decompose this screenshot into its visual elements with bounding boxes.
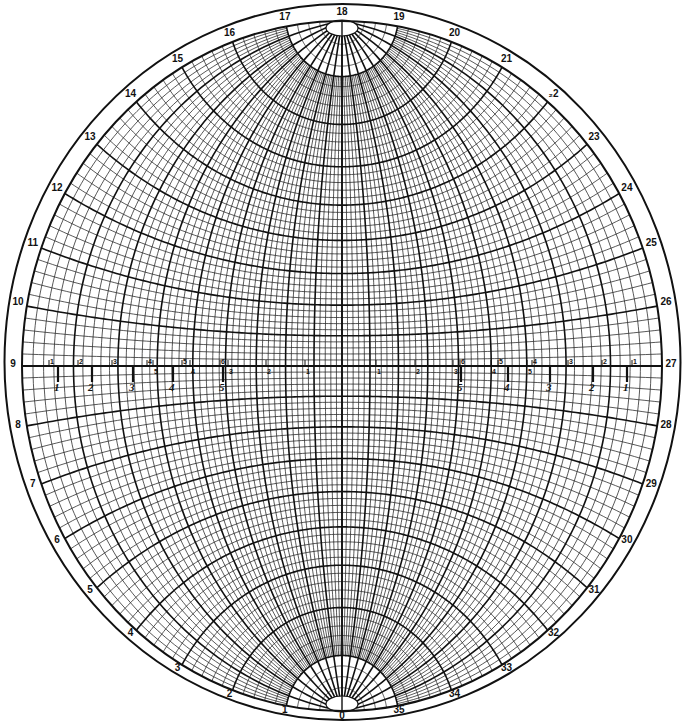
equator-scale-mark: 4: [168, 381, 175, 393]
equator-scale-mark: 2: [588, 381, 595, 393]
equator-tick-label: 2: [79, 358, 83, 365]
equator-tick-label: 4: [533, 358, 537, 365]
rim-label: 34: [449, 688, 461, 699]
rim-label: 0: [339, 710, 345, 721]
rim-label: 9: [10, 358, 16, 369]
rim-label: 8: [15, 419, 21, 430]
rim-label: 21: [501, 53, 513, 64]
equator-tick-label: 3: [454, 368, 458, 375]
rim-label: 26: [660, 296, 672, 307]
equator-tick-label: 2: [603, 358, 607, 365]
equator-tick-label: 5: [499, 358, 503, 365]
equator-tick-label: 2: [267, 368, 271, 375]
equator-scale-mark: 3: [128, 381, 135, 393]
equator-scale-mark: 4: [503, 381, 510, 393]
equator-tick-label: 4: [492, 368, 496, 375]
equator-tick-label: 5: [154, 368, 158, 375]
equator-scale-mark: 5: [219, 381, 225, 393]
equator-tick-label: 6: [461, 358, 465, 365]
rim-label: ₂2: [548, 88, 558, 99]
equator-tick-label: 2: [416, 368, 420, 375]
rim-label: 33: [501, 662, 513, 673]
stereonet: 0123456789101112131415161718192021₂22324…: [0, 0, 689, 722]
rim-label: 14: [125, 88, 137, 99]
rim-label: 13: [84, 131, 96, 142]
equator-tick-label: 4: [191, 368, 195, 375]
equator-scale-mark: 2: [87, 381, 94, 393]
rim-label: 2: [227, 688, 233, 699]
rim-label: 17: [279, 11, 291, 22]
rim-label: 15: [172, 53, 184, 64]
equator-tick-label: 5: [528, 368, 532, 375]
rim-label: 27: [665, 358, 677, 369]
rim-label: 35: [394, 704, 406, 715]
rim-label: 23: [588, 131, 600, 142]
equator-tick-label: 5: [183, 358, 187, 365]
rim-label: 1: [282, 704, 288, 715]
rim-label: 5: [87, 584, 93, 595]
rim-label: 20: [449, 27, 461, 38]
rim-label: 4: [128, 627, 134, 638]
equator-tick-label: 4: [148, 358, 152, 365]
rim-label: 7: [30, 478, 36, 489]
rim-label: 11: [28, 237, 39, 248]
rim-label: 10: [12, 296, 24, 307]
equator-scale-mark: 1: [54, 381, 60, 393]
equator-scale: 12345654321123456543211234554321: [49, 358, 637, 393]
rim-label: 31: [588, 584, 600, 595]
equator-tick-label: 1: [306, 368, 310, 375]
rim-label: 28: [660, 419, 672, 430]
rim-label: 12: [52, 182, 64, 193]
equator-tick-label: 3: [229, 368, 233, 375]
equator-scale-mark: 1: [623, 381, 629, 393]
rim-label: 24: [621, 182, 633, 193]
equator-tick-label: 1: [50, 358, 54, 365]
rim-scale-labels: 0123456789101112131415161718192021₂22324…: [10, 6, 677, 721]
rim-label: 19: [394, 11, 406, 22]
grid-major-lines: [22, 20, 662, 712]
rim-label: 18: [336, 6, 348, 17]
equator-tick-label: 1: [377, 368, 381, 375]
equator-tick-label: 6: [221, 358, 225, 365]
equator-tick-label: 3: [569, 358, 573, 365]
equator-tick-label: 3: [113, 358, 117, 365]
rim-label: 32: [548, 627, 560, 638]
rim-label: 16: [224, 27, 236, 38]
equator-scale-mark: 5: [457, 381, 463, 393]
equator-tick-label: 1: [633, 358, 637, 365]
rim-label: 25: [646, 237, 658, 248]
rim-label: 30: [621, 534, 633, 545]
rim-label: 6: [54, 534, 60, 545]
rim-label: 29: [646, 478, 658, 489]
rim-label: 3: [175, 662, 181, 673]
equator-scale-mark: 3: [545, 381, 552, 393]
